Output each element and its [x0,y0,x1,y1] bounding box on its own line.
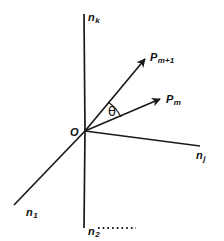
axis-line-n-1 [14,131,85,205]
vector-line-p-m [85,99,160,131]
axis-label-n-2-base: n [88,225,95,237]
axis-line-n-2 [84,131,85,228]
vector-label-p-m: Pm [166,90,181,107]
axis-label-n-j: nj [196,146,205,163]
origin-label: O [70,123,79,139]
axis-label-n-j-base: n [196,149,203,161]
axis-label-n-1: n1 [26,203,38,220]
vector-label-p-m-plus-1: Pm+1 [150,48,174,65]
axis-line-n-j [85,131,200,146]
axis-label-n-2: n2 [88,222,100,239]
axis-label-n-k: nk [88,8,100,25]
axis-label-n-1-base: n [26,206,33,218]
vector-diagram-figure: nk Pm+1 Pm θ O nj n1 n2 [0,0,224,241]
axis-label-n-2-subscript: 2 [95,230,100,239]
axis-label-n-k-base: n [88,11,95,23]
angle-label-theta: θ [108,103,116,119]
axis-label-n-1-subscript: 1 [33,211,38,220]
vector-label-p-m-plus-1-subscript: m+1 [157,56,174,65]
axis-label-n-k-subscript: k [95,16,100,25]
origin-label-text: O [70,126,79,138]
vector-label-p-m-subscript: m [173,98,181,107]
axis-line-n-k [84,14,85,131]
axis-label-n-j-subscript: j [203,154,206,163]
theta-symbol: θ [108,104,116,119]
vector-line-p-m-plus-1 [85,59,145,131]
